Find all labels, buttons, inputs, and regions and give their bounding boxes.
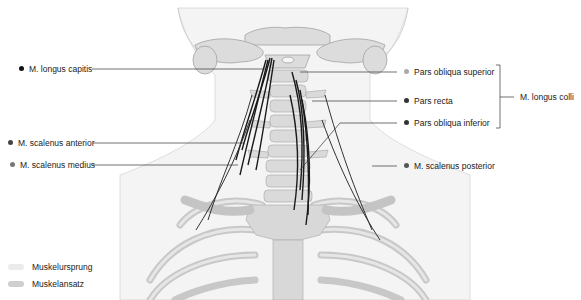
label-text: M. scalenus medius xyxy=(20,160,95,170)
anatomy-illustration xyxy=(0,0,581,300)
label-scalenus-anterior: M. scalenus anterior xyxy=(8,138,95,148)
dot-scalenus-medius-icon xyxy=(10,162,15,167)
swatch-origin-icon xyxy=(8,264,24,270)
label-text: M. scalenus anterior xyxy=(18,138,95,148)
label-text: Pars recta xyxy=(414,96,453,106)
dot-scalenus-anterior-icon xyxy=(8,140,13,145)
label-longus-capitis: M. longus capitis xyxy=(19,64,92,74)
legend-muskelursprung: Muskelursprung xyxy=(8,262,92,272)
label-longus-colli-group: M. longus colli xyxy=(520,92,574,102)
legend-text: Muskelansatz xyxy=(32,279,84,289)
dot-pars-obliqua-inferior-icon xyxy=(404,120,409,125)
dot-pars-recta-icon xyxy=(404,98,409,103)
label-text: Pars obliqua superior xyxy=(414,67,494,77)
dot-longus-capitis-icon xyxy=(19,66,24,71)
label-pars-recta: Pars recta xyxy=(404,96,453,106)
dot-pars-obliqua-superior-icon xyxy=(404,69,409,74)
label-pars-obliqua-inferior: Pars obliqua inferior xyxy=(404,118,490,128)
label-pars-obliqua-superior: Pars obliqua superior xyxy=(404,67,494,77)
label-scalenus-posterior: M. scalenus posterior xyxy=(404,161,495,171)
legend-muskelansatz: Muskelansatz xyxy=(8,279,84,289)
label-text: M. longus capitis xyxy=(29,64,92,74)
label-text: Pars obliqua inferior xyxy=(414,118,490,128)
label-scalenus-medius: M. scalenus medius xyxy=(10,160,95,170)
swatch-insertion-icon xyxy=(8,281,24,287)
dot-scalenus-posterior-icon xyxy=(404,163,409,168)
legend-text: Muskelursprung xyxy=(32,262,92,272)
label-text: M. scalenus posterior xyxy=(414,161,495,171)
